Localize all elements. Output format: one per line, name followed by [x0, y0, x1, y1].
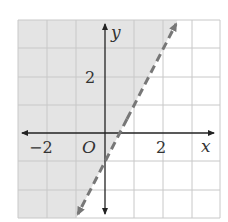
- shaded-region: [18, 20, 178, 218]
- tick-label-neg2: −2: [29, 138, 53, 157]
- y-axis-label: y: [110, 22, 121, 42]
- origin-label: O: [82, 137, 96, 157]
- x-axis-label: x: [201, 136, 211, 156]
- tick-label-x2: 2: [156, 138, 166, 157]
- tick-label-y2: 2: [85, 68, 95, 87]
- inequality-graph: y x O −2 2 2: [0, 0, 228, 222]
